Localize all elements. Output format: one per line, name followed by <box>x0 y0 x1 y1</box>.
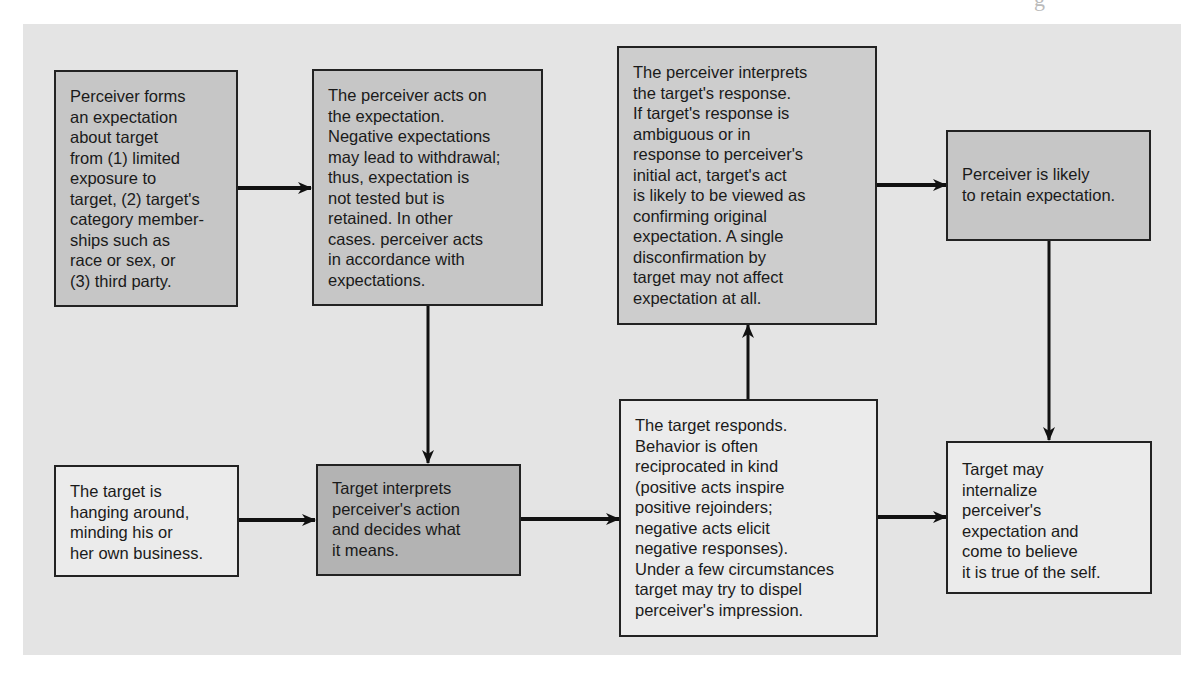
node-perceiver-acts-on-expectation: The perceiver acts on the expectation. N… <box>312 69 543 306</box>
node-target-internalizes-expectation: Target may internalize perceiver's expec… <box>946 441 1152 594</box>
node-target-minding-business: The target is hanging around, minding hi… <box>54 465 239 577</box>
node-perceiver-retains-expectation: Perceiver is likely to retain expectatio… <box>946 130 1151 241</box>
node-target-interprets-action: Target interprets perceiver's action and… <box>316 464 521 576</box>
node-target-responds: The target responds. Behavior is often r… <box>619 399 878 637</box>
node-perceiver-forms-expectation: Perceiver forms an expectation about tar… <box>54 70 238 307</box>
node-perceiver-interprets-response: The perceiver interprets the target's re… <box>617 46 877 325</box>
